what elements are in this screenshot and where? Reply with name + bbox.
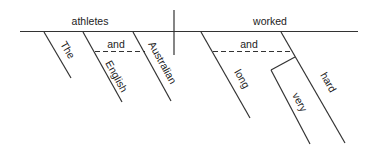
modifier-long: long (232, 67, 252, 90)
subject-word: athletes (72, 15, 109, 27)
conjunction-and-subject: and (107, 38, 125, 50)
conjunction-and-verb: and (240, 38, 258, 50)
sentence-diagram: athletes worked The English and Australi… (0, 0, 375, 152)
modifier-the: The (58, 39, 78, 61)
modifier-hard: hard (318, 70, 339, 94)
verb-word: worked (252, 15, 287, 27)
adverb-connector-line (271, 57, 295, 70)
adverb-very: very (290, 90, 310, 114)
